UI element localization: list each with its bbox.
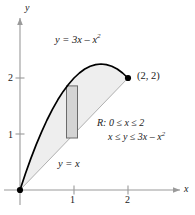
region-description-line2-text: x ≤ y ≤ 3x – x	[108, 131, 162, 142]
representative-rectangle	[67, 86, 78, 138]
x-axis-label: x	[184, 183, 188, 194]
x-axis-arrow	[173, 187, 180, 193]
parabola-equation-label: y = 3x – x2	[55, 32, 101, 46]
point-2-2-dot	[125, 75, 131, 81]
x-tick-label-1: 1	[70, 194, 75, 205]
parabola-equation-text: y = 3x – x	[55, 34, 97, 45]
region-description-line1: R: 0 ≤ x ≤ 2	[97, 117, 144, 128]
x-tick-label-2: 2	[125, 194, 130, 205]
y-tick-label-1: 1	[8, 129, 13, 140]
y-axis-arrow	[17, 18, 23, 25]
line-equation-label: y = x	[58, 158, 80, 170]
region-description-label: R: 0 ≤ x ≤ 2x ≤ y ≤ 3x – x2	[97, 117, 165, 142]
region-description-line2-exponent: 2	[162, 130, 165, 137]
region-description-line2: x ≤ y ≤ 3x – x2	[108, 130, 165, 143]
point-origin-dot	[17, 187, 23, 193]
point-coordinate-label: (2, 2)	[137, 70, 160, 82]
y-axis-label: y	[25, 2, 29, 13]
y-tick-label-2: 2	[8, 72, 13, 83]
parabola-equation-exponent: 2	[97, 32, 101, 40]
region-diagram-figure: y x 1 2 1 2 y = 3x – x2 y = x (2, 2) R: …	[0, 0, 195, 215]
